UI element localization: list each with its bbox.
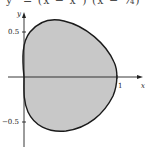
plot: y 0.5 −0.5 1 x	[0, 0, 150, 147]
closed-curve-region	[23, 20, 117, 132]
y-axis-arrow-icon	[22, 12, 26, 18]
tick-label-x-one: 1	[118, 82, 122, 90]
x-axis-label: x	[141, 82, 145, 90]
tick-label-y-neg: −0.5	[2, 118, 19, 126]
tick-label-y-pos: 0.5	[8, 28, 19, 36]
x-axis-arrow-icon	[137, 75, 143, 79]
y-axis-label: y	[16, 10, 22, 18]
